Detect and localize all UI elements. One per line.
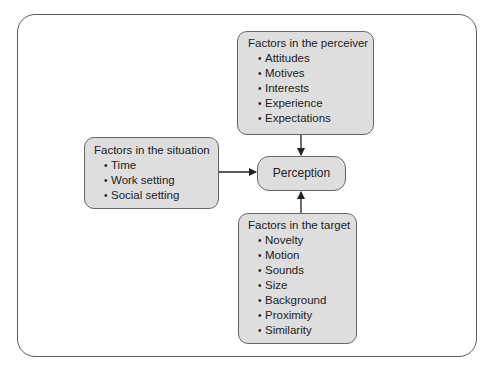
target-factors-box: Factors in the target Novelty Motion Sou… xyxy=(238,213,357,344)
list-item: Size xyxy=(258,278,356,293)
list-item: Proximity xyxy=(258,308,356,323)
perception-label: Perception xyxy=(273,166,330,181)
list-item: Sounds xyxy=(258,263,356,278)
list-item: Expectations xyxy=(258,111,373,126)
perceiver-title: Factors in the perceiver xyxy=(248,36,373,51)
target-title: Factors in the target xyxy=(248,218,356,233)
perceiver-factors-box: Factors in the perceiver Attitudes Motiv… xyxy=(237,31,374,135)
list-item: Experience xyxy=(258,96,373,111)
list-item: Attitudes xyxy=(258,51,373,66)
situation-list: Time Work setting Social setting xyxy=(94,158,218,203)
list-item: Motives xyxy=(258,66,373,81)
list-item: Time xyxy=(104,158,218,173)
list-item: Background xyxy=(258,293,356,308)
situation-title: Factors in the situation xyxy=(94,143,218,158)
perceiver-list: Attitudes Motives Interests Experience E… xyxy=(248,51,373,126)
list-item: Motion xyxy=(258,248,356,263)
list-item: Similarity xyxy=(258,323,356,338)
list-item: Work setting xyxy=(104,173,218,188)
situation-factors-box: Factors in the situation Time Work setti… xyxy=(84,137,219,209)
list-item: Interests xyxy=(258,81,373,96)
target-list: Novelty Motion Sounds Size Background Pr… xyxy=(248,233,356,338)
list-item: Novelty xyxy=(258,233,356,248)
perception-node: Perception xyxy=(257,156,346,191)
list-item: Social setting xyxy=(104,188,218,203)
